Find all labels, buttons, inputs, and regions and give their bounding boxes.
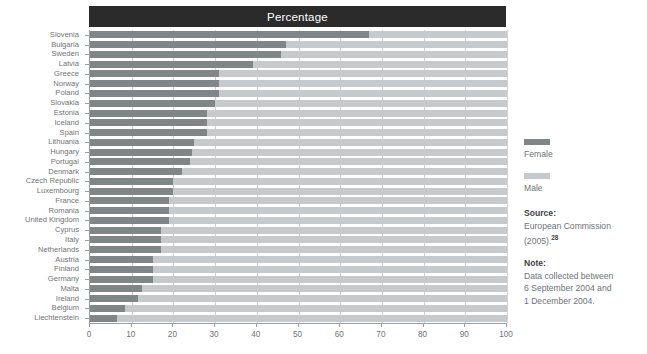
x-tick-label: 80 <box>418 330 427 339</box>
source-reference: 28 <box>551 234 558 241</box>
bar-segment-female <box>90 236 161 243</box>
category-label: Finland <box>54 265 79 273</box>
bar-segment-male <box>286 41 507 48</box>
bar-segment-female <box>90 276 153 283</box>
legend-and-notes: Female Male Source: European Commission … <box>524 139 642 307</box>
bar-row <box>90 276 507 283</box>
category-label: France <box>55 197 79 205</box>
bar-row <box>90 139 507 146</box>
bar-segment-female <box>90 158 190 165</box>
bar-segment-male <box>153 276 507 283</box>
bar-segment-female <box>90 295 138 302</box>
bar-segment-male <box>153 266 507 273</box>
source-line-2-text: (2005). <box>524 236 551 246</box>
x-tick-mark <box>172 323 173 327</box>
bar-row <box>90 305 507 312</box>
x-tick-label: 40 <box>251 330 260 339</box>
bar-segment-female <box>90 168 182 175</box>
bar-segment-male <box>125 305 507 312</box>
bar-segment-female <box>90 90 219 97</box>
bar-segment-female <box>90 246 161 253</box>
category-label: Slovenia <box>50 31 79 39</box>
bar-segment-male <box>215 100 507 107</box>
x-tick-label: 10 <box>126 330 135 339</box>
bar-segment-male <box>219 80 507 87</box>
category-label: Greece <box>54 70 79 78</box>
bar-row <box>90 158 507 165</box>
bar-segment-male <box>169 217 507 224</box>
bar-row <box>90 246 507 253</box>
bar-segment-male <box>369 31 507 38</box>
bar-row <box>90 236 507 243</box>
category-label: Ireland <box>56 295 79 303</box>
bar-segment-male <box>169 207 507 214</box>
bar-segment-female <box>90 256 153 263</box>
bar-segment-female <box>90 305 125 312</box>
bar-row <box>90 129 507 136</box>
bar-segment-female <box>90 217 169 224</box>
bar-segment-male <box>161 246 507 253</box>
category-label: Bulgaria <box>51 41 79 49</box>
bar-row <box>90 61 507 68</box>
category-label: Portugal <box>51 158 79 166</box>
bar-segment-female <box>90 100 215 107</box>
x-tick-label: 70 <box>376 330 385 339</box>
x-tick-label: 90 <box>460 330 469 339</box>
bar-row <box>90 207 507 214</box>
category-label: Belgium <box>52 304 79 312</box>
bar-row <box>90 178 507 185</box>
bar-segment-female <box>90 207 169 214</box>
note-line-2: 6 September 2004 and <box>524 282 642 295</box>
bar-row <box>90 80 507 87</box>
category-label: Iceland <box>55 119 80 127</box>
category-label: Norway <box>53 80 79 88</box>
bar-segment-female <box>90 197 169 204</box>
bar-row <box>90 31 507 38</box>
bar-row <box>90 168 507 175</box>
bar-segment-male <box>169 197 507 204</box>
plot-area <box>89 30 507 323</box>
bar-segment-female <box>90 80 219 87</box>
bar-row <box>90 51 507 58</box>
x-tick-mark <box>506 323 507 327</box>
note-line-1: Data collected between <box>524 270 642 283</box>
category-label: Luxembourg <box>37 187 79 195</box>
x-tick-mark <box>214 323 215 327</box>
bar-row <box>90 227 507 234</box>
category-label: Latvia <box>59 60 79 68</box>
bar-row <box>90 256 507 263</box>
source-line-2: (2005).28 <box>524 232 642 247</box>
bar-row <box>90 295 507 302</box>
note-block: Note: Data collected between 6 September… <box>524 257 642 307</box>
category-label: Netherlands <box>38 246 79 254</box>
source-block: Source: European Commission (2005).28 <box>524 207 642 247</box>
bar-segment-male <box>117 315 507 322</box>
category-label: Cyprus <box>55 226 79 234</box>
bar-row <box>90 188 507 195</box>
bar-segment-female <box>90 129 207 136</box>
bar-segment-female <box>90 315 117 322</box>
bar-row <box>90 266 507 273</box>
bar-segment-male <box>253 61 507 68</box>
x-tick-mark <box>298 323 299 327</box>
bar-row <box>90 285 507 292</box>
category-label: Sweden <box>52 50 79 58</box>
category-label: Slovakia <box>50 99 79 107</box>
bar-segment-male <box>182 168 507 175</box>
bar-rows <box>90 30 507 323</box>
category-label: Germany <box>48 275 79 283</box>
chart-title: Percentage <box>89 6 506 27</box>
bar-segment-male <box>138 295 507 302</box>
category-label: Austria <box>55 256 79 264</box>
chart-container: Percentage SloveniaBulgariaSwedenLatviaG… <box>0 0 647 354</box>
bar-row <box>90 110 507 117</box>
bar-segment-female <box>90 149 192 156</box>
bar-row <box>90 41 507 48</box>
category-label: Estonia <box>54 109 79 117</box>
bar-row <box>90 70 507 77</box>
x-tick-mark <box>131 323 132 327</box>
bar-segment-male <box>219 70 507 77</box>
x-tick-label: 20 <box>168 330 177 339</box>
bar-segment-female <box>90 188 173 195</box>
x-tick-mark <box>256 323 257 327</box>
